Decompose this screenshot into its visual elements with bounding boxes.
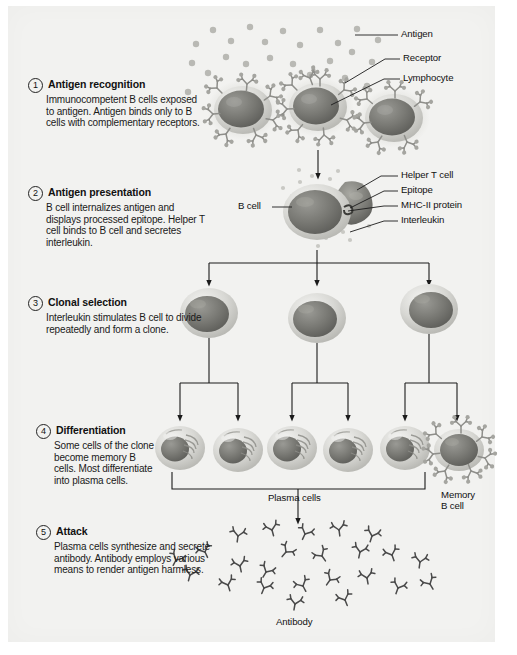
label-receptor: Receptor <box>403 52 441 63</box>
step-2-body: B cell internalizes antigen and displays… <box>46 202 206 249</box>
branch-step2-to-step3 <box>209 250 429 283</box>
label-interleukin: Interleukin <box>401 214 444 225</box>
step-2-header: 2 Antigen presentation <box>28 186 206 201</box>
label-plasma-cells: Plasma cells <box>268 492 321 503</box>
step-3-clonal-selection: 3 Clonal selection Interleukin stimulate… <box>28 296 206 335</box>
label-b-cell: B cell <box>238 200 261 211</box>
step-5-body: Plasma cells synthesize and secrete anti… <box>54 541 214 576</box>
step-4-header: 4 Differentiation <box>36 424 156 439</box>
step-5-number: 5 <box>36 525 51 540</box>
step-2-antigen-presentation: 2 Antigen presentation B cell internaliz… <box>28 186 206 249</box>
step-5-header: 5 Attack <box>36 525 214 540</box>
label-memory-b-cell: Memory B cell <box>441 489 475 511</box>
label-mhc-ii-protein: MHC-II protein <box>401 199 462 210</box>
label-epitope: Epitope <box>401 184 433 195</box>
step-3-header: 3 Clonal selection <box>28 296 206 311</box>
label-antibody: Antibody <box>276 616 313 627</box>
lymphocyte-right <box>352 80 436 157</box>
step-2-number: 2 <box>28 186 43 201</box>
step-4-differentiation: 4 Differentiation Some cells of the clon… <box>36 424 156 487</box>
b-cell-step2 <box>283 184 351 240</box>
immune-response-figure: 1 Antigen recognition Immunocompetent B … <box>0 0 517 655</box>
plasma-cell-2 <box>213 428 263 472</box>
step-3-number: 3 <box>28 296 43 311</box>
step-1-title: Antigen recognition <box>48 78 145 91</box>
step-1-header: 1 Antigen recognition <box>28 78 206 93</box>
step-4-number: 4 <box>36 424 51 439</box>
plasma-cell-3 <box>267 426 317 470</box>
step-1-antigen-recognition: 1 Antigen recognition Immunocompetent B … <box>28 78 206 129</box>
label-memory-b-cell-line2: B cell <box>441 500 475 511</box>
clone-cell-3 <box>400 284 458 334</box>
step-5-attack: 5 Attack Plasma cells synthesize and sec… <box>36 525 214 576</box>
step-3-body: Interleukin stimulates B cell to divide … <box>46 312 206 335</box>
plasma-cell-1 <box>155 426 205 470</box>
lymphocyte-left <box>201 72 285 149</box>
label-lymphocyte: Lymphocyte <box>403 72 453 83</box>
label-memory-b-cell-line1: Memory <box>441 489 475 500</box>
step-2-title: Antigen presentation <box>48 186 151 199</box>
step-4-title: Differentiation <box>56 424 126 437</box>
step-4-body: Some cells of the clone become memory B … <box>54 440 156 487</box>
step-1-body: Immunocompetent B cells exposed to antig… <box>46 94 206 129</box>
label-helper-t-cell: Helper T cell <box>401 169 453 180</box>
step-1-number: 1 <box>28 78 43 93</box>
plasma-cell-4 <box>323 428 373 472</box>
label-antigen: Antigen <box>401 28 433 39</box>
branch-step3-to-step4 <box>180 334 457 418</box>
step-3-title: Clonal selection <box>48 296 127 309</box>
step-5-title: Attack <box>56 525 88 538</box>
clone-cell-2 <box>288 293 346 343</box>
memory-b-cell <box>421 415 499 486</box>
